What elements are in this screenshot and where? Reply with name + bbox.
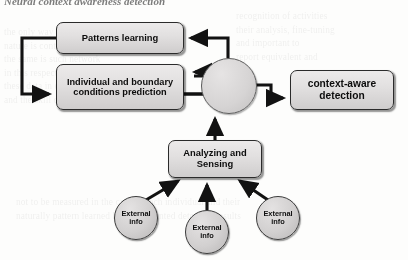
node-external-info[interactable]: External info [185,210,229,254]
connector-junction-to-context [255,85,283,98]
node-external-info[interactable]: External info [256,196,300,240]
flow-diagram: Patterns learning Individual and boundar… [0,0,408,260]
connector-ext-right-to-analyzing [240,181,268,200]
node-patterns-learning[interactable]: Patterns learning [56,22,184,54]
connector-junction-to-patterns [191,38,228,58]
node-external-info[interactable]: External info [114,196,158,240]
connector-patterns-to-prediction [22,38,56,94]
node-analyzing-and-sensing[interactable]: Analyzing and Sensing [168,140,262,178]
node-context-aware-detection[interactable]: context-aware detection [290,70,394,110]
merge-junction-node[interactable] [201,58,257,114]
node-prediction[interactable]: Individual and boundary conditions predi… [56,64,184,110]
scanned-page: Neural context awareness detection the o… [0,0,408,260]
connector-ext-left-to-analyzing [146,181,178,200]
